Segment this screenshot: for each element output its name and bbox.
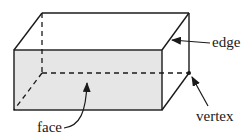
edge-bottom-right-diag	[162, 73, 189, 110]
vertex-arrow	[192, 77, 208, 106]
face-label: face	[37, 119, 62, 135]
edge-label: edge	[212, 34, 241, 50]
vertex-label: vertex	[196, 108, 234, 124]
vertex-dot	[187, 71, 191, 75]
edge-top-right-diag	[162, 13, 189, 50]
edge-top-left-diag	[14, 13, 42, 50]
edge-arrow	[172, 40, 210, 43]
prism-diagram: edge vertex face	[0, 0, 248, 138]
